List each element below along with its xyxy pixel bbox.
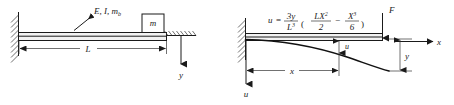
- equation-coef-denominator: L3: [286, 22, 295, 32]
- tip-mass-block: m: [142, 14, 164, 33]
- tip-mass-label: m: [150, 18, 157, 28]
- equation-term1-denominator: 2: [319, 22, 324, 32]
- tip-deflection-label: y: [404, 51, 409, 61]
- displacement-axis-left: y: [165, 31, 197, 80]
- equation-coef-numerator: 3y: [286, 11, 296, 21]
- tip-force-label: F: [388, 5, 395, 15]
- u-axis-label: u: [244, 89, 249, 99]
- fixed-wall-support-right: [238, 18, 246, 63]
- fixed-wall-support-left: [11, 12, 19, 63]
- engineering-figure: m E, I, mb L: [0, 0, 454, 105]
- tip-force-arrow: F: [383, 5, 396, 38]
- x-coordinate-dimension: x: [247, 53, 339, 76]
- deflection-equation: u = 3y L3 ( LX2 2 − X3 6 ): [268, 11, 364, 32]
- equation-equals: =: [276, 15, 281, 25]
- u-axis: u: [244, 40, 249, 99]
- beam-right-undeformed: [246, 34, 383, 41]
- local-deflection-label: u: [345, 42, 349, 51]
- equation-open-paren: (: [301, 19, 304, 29]
- y-axis-label-left: y: [178, 70, 183, 80]
- span-dimension-left: L: [19, 41, 167, 54]
- equation-term2-denominator: 6: [350, 22, 355, 32]
- tip-deflection-dimension: y: [389, 39, 412, 71]
- equation-close-paren: ): [361, 19, 364, 29]
- left-diagram-cantilever-with-tip-mass: m E, I, mb L: [0, 0, 227, 105]
- local-deflection-dimension: u: [339, 41, 349, 53]
- beam-properties-label: E, I, mb: [93, 6, 121, 17]
- equation-term2-numerator: X3: [347, 11, 357, 21]
- beam-property-callout: E, I, mb: [74, 6, 121, 31]
- span-label: L: [84, 44, 90, 54]
- right-diagram-deflection-shape: F u = 3y L3 ( LX2 2 − X3 6 ): [227, 0, 454, 105]
- deflection-curve: [246, 40, 390, 72]
- x-axis: x: [395, 37, 441, 47]
- equation-minus: −: [335, 15, 340, 25]
- x-axis-label: x: [436, 37, 441, 47]
- equation-lhs: u: [268, 15, 273, 25]
- beam-left: [19, 33, 167, 41]
- x-coordinate-label: x: [289, 66, 294, 76]
- equation-term1-numerator: LX2: [313, 11, 328, 21]
